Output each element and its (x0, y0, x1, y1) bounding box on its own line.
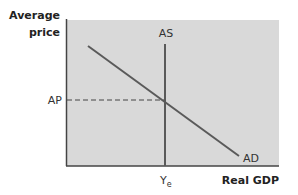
aggregate-supply-demand-chart: Average price AS AD AP Ye Real GDP (0, 0, 298, 195)
y-axis-label-line1: Average (9, 9, 60, 22)
ad-label: AD (243, 152, 259, 165)
ap-tick-label: AP (48, 94, 63, 107)
chart-svg: Average price AS AD AP Ye Real GDP (0, 0, 298, 195)
y-axis-label-line2: price (29, 26, 60, 39)
as-label: AS (159, 27, 174, 40)
ye-tick-label: Ye (159, 174, 172, 189)
x-axis-label: Real GDP (222, 174, 279, 187)
plot-area (66, 20, 279, 166)
